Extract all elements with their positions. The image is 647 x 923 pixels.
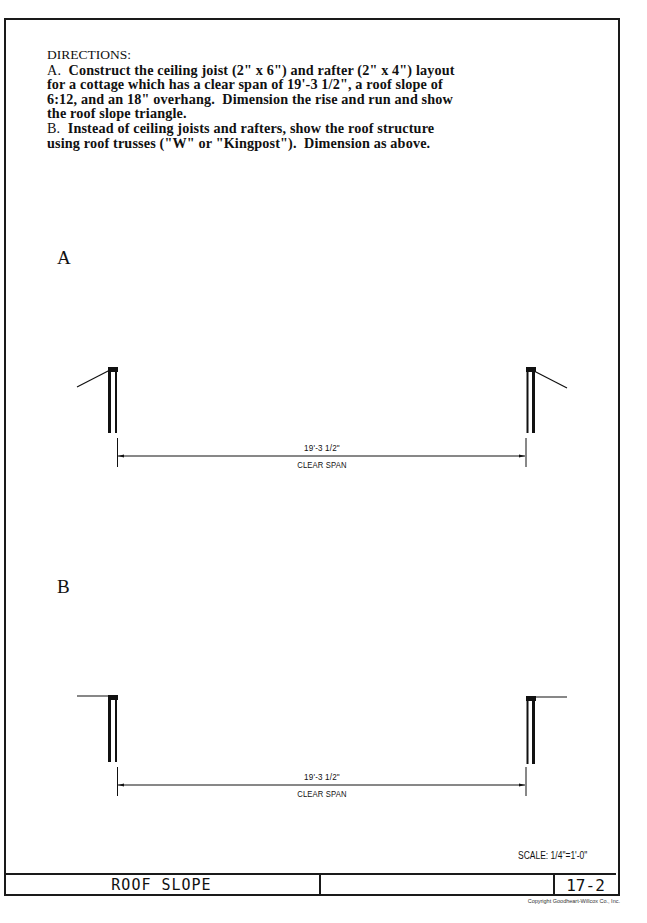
section-b-dimension-caption: CLEAR SPAN — [271, 789, 373, 799]
section-b-dimension-value: 19'-3 1/2" — [271, 771, 373, 782]
section-a-right-wall — [526, 367, 567, 433]
copyright-notice: Copyright Goodheart-Willcox Co., Inc. — [528, 898, 620, 904]
scale-note: SCALE: 1/4"=1'-0" — [518, 850, 587, 861]
section-a-left-wall — [77, 367, 118, 433]
title-block-middle-cell — [321, 875, 555, 895]
sheet-number: 17-2 — [555, 875, 616, 895]
section-label-b: B — [57, 576, 70, 598]
title-block: ROOF SLOPE 17-2 — [4, 873, 616, 895]
section-a-dimension-value: 19'-3 1/2" — [271, 442, 373, 453]
section-b-right-wall — [526, 696, 567, 764]
section-b-left-wall — [77, 695, 118, 762]
sheet-title: ROOF SLOPE — [4, 875, 321, 895]
section-a-dimension-caption: CLEAR SPAN — [271, 460, 373, 470]
